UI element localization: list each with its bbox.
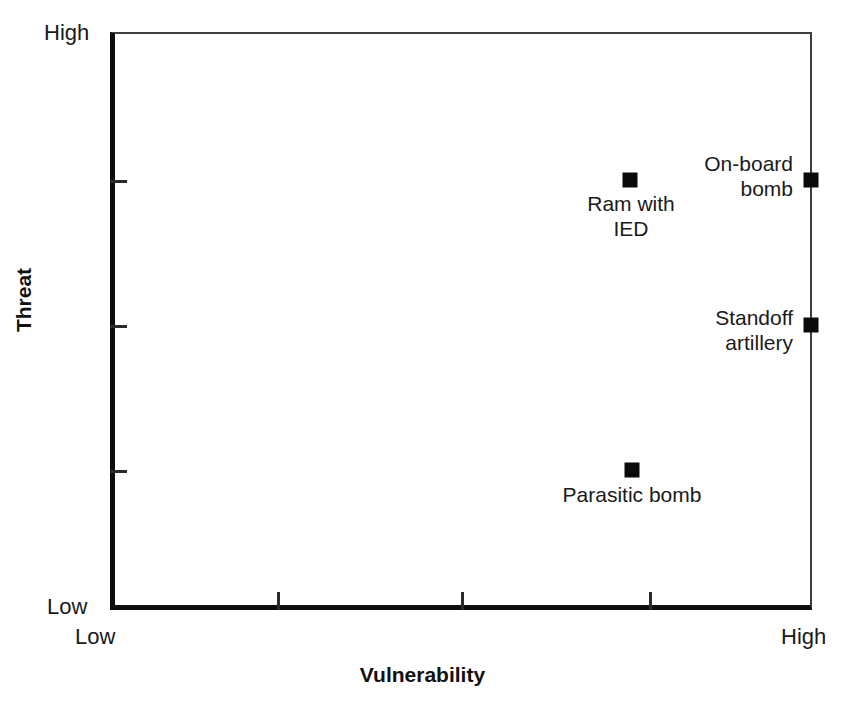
y-axis-low-label: Low — [47, 596, 87, 618]
data-label-ram-with-ied: Ram with IED — [587, 192, 675, 242]
y-axis-high-label: High — [44, 22, 89, 44]
y-axis-tick-1 — [110, 180, 127, 183]
data-point-on-board-bomb[interactable] — [804, 173, 819, 188]
x-axis-high-label: High — [781, 626, 826, 648]
x-axis-low-label: Low — [75, 626, 115, 648]
data-label-on-board-bomb: On-board bomb — [704, 152, 793, 202]
x-axis-tick-1 — [277, 592, 280, 610]
x-axis-tick-3 — [649, 592, 652, 610]
y-axis-tick-2 — [110, 325, 127, 328]
chart-canvas: High Low Low High Threat Vulnerability R… — [0, 0, 845, 708]
data-label-standoff-artillery: Standoff artillery — [715, 306, 793, 356]
plot-frame — [110, 32, 812, 610]
data-point-parasitic-bomb[interactable] — [625, 463, 640, 478]
data-point-standoff-artillery[interactable] — [804, 318, 819, 333]
x-axis-title: Vulnerability — [0, 663, 845, 687]
y-axis-title: Threat — [12, 268, 36, 332]
data-point-ram-with-ied[interactable] — [623, 173, 638, 188]
x-axis-tick-2 — [461, 592, 464, 610]
y-axis-tick-3 — [110, 470, 127, 473]
data-label-parasitic-bomb: Parasitic bomb — [563, 483, 702, 508]
